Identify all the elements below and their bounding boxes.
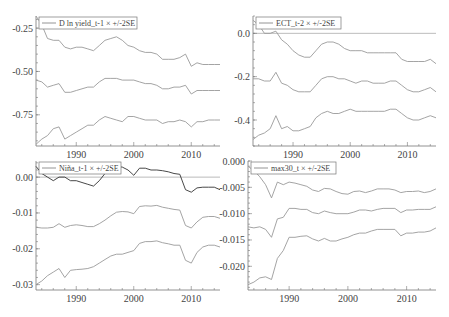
legend-label: Niña_t-1 × +/-2SE [59,164,119,173]
y-tick-label: -0.005 [219,182,245,193]
x-tick-label: 2000 [338,293,358,304]
y-tick-label: -0.4 [234,115,250,126]
x-tick-label: 1990 [279,293,299,304]
legend-label: D ln yield_t-1 × +/-2SE [59,19,135,28]
series-line-lower [36,241,220,285]
x-tick-label: 2000 [340,149,360,160]
legend-label: ECT_t-2 × +/-2SE [276,19,335,28]
panel-nina: 0.00-0.01-0.02-0.03199020002010Niña_t-1 … [12,161,220,304]
series-line-estimate [36,205,220,228]
panel-max30: 0.000-0.005-0.010-0.015-0.02019902000201… [219,156,436,305]
series-line-estimate [36,78,220,94]
x-tick-label: 1990 [66,293,86,304]
y-tick-label: 0.000 [223,156,246,167]
y-tick-label: 0.00 [16,172,34,183]
legend-label: max30_t × +/-2SE [271,164,330,173]
x-tick-label: 2010 [181,293,201,304]
x-tick-label: 1990 [66,149,86,160]
y-tick-label: -0.02 [12,243,33,254]
y-tick-label: -0.2 [234,71,250,82]
series-line-estimate [253,72,436,92]
series-line-lower [36,117,220,145]
x-tick-label: 2000 [124,149,144,160]
y-tick-label: -0.25 [12,23,33,34]
y-tick-label: -0.020 [219,261,245,272]
x-tick-label: 1990 [283,149,303,160]
series-line-lower [248,228,436,285]
y-tick-label: -0.03 [12,279,33,290]
x-tick-label: 2010 [397,293,417,304]
y-tick-label: -0.50 [12,66,33,77]
y-tick-label: -0.01 [12,207,33,218]
y-tick-label: -0.75 [12,109,33,120]
panel-ect: 0.0-0.2-0.4199020002010ECT_t-2 × +/-2SE [234,16,436,160]
series-line-lower [253,109,436,139]
x-tick-label: 2010 [397,149,417,160]
y-tick-label: -0.010 [219,208,245,219]
axes [248,161,436,290]
x-tick-label: 2010 [181,149,201,160]
y-tick-label: -0.015 [219,234,245,245]
x-tick-label: 2000 [124,293,144,304]
axes [36,161,220,290]
panel-d-ln-yield: -0.25-0.50-0.75199020002010D ln yield_t-… [12,16,220,160]
y-tick-label: 0.0 [238,28,251,39]
figure-canvas: -0.25-0.50-0.75199020002010D ln yield_t-… [0,0,449,317]
